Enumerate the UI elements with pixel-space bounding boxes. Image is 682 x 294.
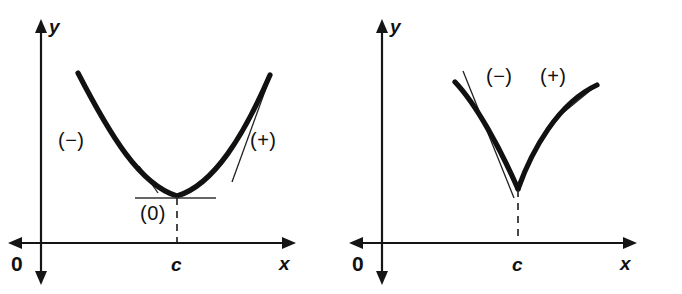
x-axis-left-arrowhead: [8, 237, 22, 249]
cusp-right-branch: [518, 85, 597, 189]
panel-cusp-minimum: y x 0 c (−) (+): [341, 0, 682, 294]
y-axis-right: [376, 19, 388, 285]
sign-label-zero: (0): [140, 202, 166, 224]
x-axis-label: x: [278, 253, 291, 274]
y-axis-bottom-arrowhead: [35, 271, 47, 285]
origin-label: 0: [11, 252, 23, 275]
cusp-minimum-plot: y x 0 c (−) (+): [341, 0, 682, 294]
x-axis-right-arrowhead: [282, 237, 296, 249]
y-axis-top-arrowhead: [376, 19, 388, 33]
figure-root: y x 0 c (−) (+) (0): [0, 0, 682, 294]
y-axis-label: y: [48, 16, 61, 37]
c-tick-label: c: [171, 254, 182, 275]
x-axis-left-arrowhead: [349, 237, 363, 249]
x-axis-label: x: [619, 253, 632, 274]
c-tick-label: c: [512, 254, 523, 275]
x-axis-right: [349, 237, 637, 249]
y-axis-left: [35, 19, 47, 285]
origin-label: 0: [352, 252, 364, 275]
sign-label-positive: (+): [250, 129, 277, 151]
y-axis-bottom-arrowhead: [376, 271, 388, 285]
x-axis-left: [8, 237, 296, 249]
sign-label-positive: (+): [540, 65, 567, 87]
y-axis-top-arrowhead: [35, 19, 47, 33]
sign-label-negative: (−): [486, 65, 513, 87]
smooth-minimum-plot: y x 0 c (−) (+) (0): [0, 0, 341, 294]
smooth-curve: [78, 73, 270, 196]
cusp-left-branch: [455, 82, 518, 189]
panel-smooth-minimum: y x 0 c (−) (+) (0): [0, 0, 341, 294]
y-axis-label: y: [389, 16, 402, 37]
sign-label-negative: (−): [58, 129, 85, 151]
x-axis-right-arrowhead: [623, 237, 637, 249]
